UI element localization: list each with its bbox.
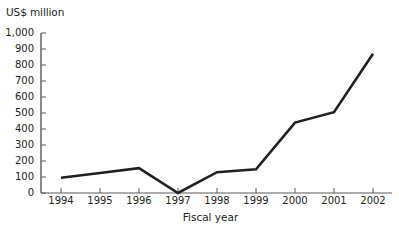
data-series-line (61, 54, 373, 193)
y-axis-ticks (41, 33, 46, 193)
x-axis-tick-label-text: 1994 (48, 196, 73, 206)
x-axis-tick-label-text: 1996 (126, 196, 151, 206)
x-axis-ticks (61, 188, 373, 193)
x-axis-tick-label-text: 2000 (282, 196, 307, 206)
x-axis-title-text: Fiscal year (183, 211, 239, 223)
x-axis-tick-label-text: 2001 (321, 196, 346, 206)
x-axis-tick-label-text: 2002 (360, 196, 385, 206)
x-axis-tick-label-text: 1995 (87, 196, 112, 206)
x-axis-title: Fiscal year (0, 211, 399, 223)
line-chart: US$ million 1,00090080070060050040030020… (0, 0, 399, 232)
x-axis-tick-label-text: 1998 (204, 196, 229, 206)
axis-lines (41, 33, 392, 193)
x-axis-tick-label-text: 1997 (165, 196, 190, 206)
x-axis-tick-label-text: 1999 (243, 196, 268, 206)
